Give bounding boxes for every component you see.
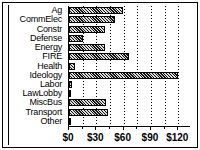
bar-row	[69, 117, 190, 126]
plot-area	[68, 6, 190, 126]
bar	[69, 72, 178, 79]
bar	[69, 35, 83, 42]
bar-row	[69, 6, 190, 15]
bar-row	[69, 34, 190, 43]
x-tick-label: $60	[114, 132, 131, 144]
bar-series	[69, 6, 190, 126]
bar-row	[69, 89, 190, 98]
category-axis-labels: AgCommElecConstrDefenseEnergyFIREHealthI…	[6, 6, 64, 126]
bar	[69, 44, 105, 51]
bar	[69, 53, 129, 60]
category-label: Other	[6, 117, 64, 126]
bar-row	[69, 52, 190, 61]
x-tick-minor	[136, 126, 137, 129]
bar-row	[69, 61, 190, 70]
bar-row	[69, 24, 190, 33]
bar	[69, 81, 72, 88]
bar-row	[69, 98, 190, 107]
x-tick-minor	[164, 126, 165, 129]
x-tick-label: $0	[62, 132, 73, 144]
x-tick-minor	[109, 126, 110, 129]
bar-row	[69, 15, 190, 24]
bar-chart-figure: AgCommElecConstrDefenseEnergyFIREHealthI…	[0, 0, 200, 150]
bar	[69, 63, 75, 70]
x-tick-label: $120	[166, 132, 188, 144]
x-tick-label: $90	[142, 132, 159, 144]
bar	[69, 118, 71, 125]
bar-row	[69, 108, 190, 117]
x-axis-ticks	[68, 126, 190, 131]
x-axis-tick-labels: $0$30$60$90$120	[0, 132, 200, 146]
x-tick	[177, 126, 178, 130]
x-tick-minor	[82, 126, 83, 129]
bar-row	[69, 80, 190, 89]
bar	[69, 109, 108, 116]
x-tick	[123, 126, 124, 130]
bar	[69, 99, 106, 106]
bar-row	[69, 43, 190, 52]
bar	[69, 90, 71, 97]
x-tick	[150, 126, 151, 130]
bar	[69, 7, 123, 14]
bar	[69, 26, 105, 33]
bar	[69, 16, 115, 23]
x-tick-label: $30	[87, 132, 104, 144]
x-tick	[68, 126, 69, 130]
bar-row	[69, 71, 190, 80]
x-tick	[95, 126, 96, 130]
